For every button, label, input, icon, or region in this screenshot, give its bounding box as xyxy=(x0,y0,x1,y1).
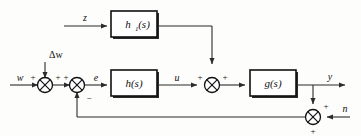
sign-sum-control-left: + xyxy=(197,72,202,82)
block-diagram-svg: h 1 (s) h(s) g(s) z Δw w e u y n + + + −… xyxy=(0,0,361,136)
signal-label-e: e xyxy=(94,72,99,83)
sign-sum-reference-left: + xyxy=(30,72,35,82)
sum-junction-control[interactable] xyxy=(205,78,220,93)
sign-sum-reference-right: + xyxy=(55,72,60,82)
sign-sum-error-feedback: − xyxy=(86,93,91,103)
sum-junction-error[interactable] xyxy=(70,78,85,93)
signal-label-z: z xyxy=(82,12,87,23)
sign-sum-error-left: + xyxy=(63,72,68,82)
sum-junction-noise[interactable] xyxy=(306,110,321,125)
signal-label-y: y xyxy=(327,71,333,82)
block-diagram-canvas: h 1 (s) h(s) g(s) z Δw w e u y n + + + −… xyxy=(0,0,361,136)
block-g-label: g(s) xyxy=(264,77,281,90)
block-h-label: h(s) xyxy=(125,77,142,90)
block-hf-label: h xyxy=(125,18,131,30)
signal-label-delta-w: Δw xyxy=(49,49,63,60)
signal-label-w: w xyxy=(17,72,24,83)
signal-label-n: n xyxy=(343,103,348,114)
sign-sum-control-right: + xyxy=(222,72,227,82)
block-hf-suffix: (s) xyxy=(138,18,150,31)
sign-sum-noise-bottom: + xyxy=(310,126,315,136)
sign-sum-noise-top: + xyxy=(323,101,328,111)
sum-junction-reference[interactable] xyxy=(38,78,53,93)
signal-label-u: u xyxy=(175,72,180,83)
